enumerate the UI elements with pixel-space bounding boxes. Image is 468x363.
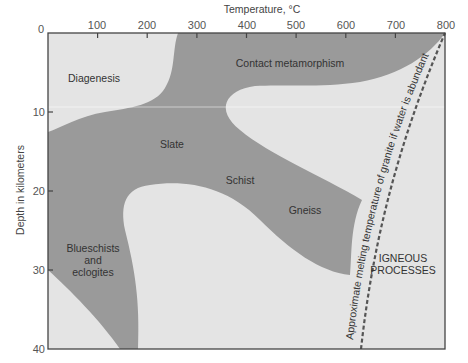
x-tick-600: 600 <box>337 19 355 31</box>
label-contact-metamorphism: Contact metamorphism <box>236 57 345 69</box>
label-schist: Schist <box>226 174 255 186</box>
x-tick-700: 700 <box>387 19 405 31</box>
y-tick-40: 40 <box>33 343 45 355</box>
y-tick-20: 20 <box>33 185 45 197</box>
y-tick-30: 30 <box>33 264 45 276</box>
metamorphism-diagram: Temperature, °C 0 100 200 300 400 500 60… <box>0 0 468 363</box>
x-tick-200: 200 <box>138 19 156 31</box>
x-tick-500: 500 <box>287 19 305 31</box>
x-tick-0: 0 <box>38 23 44 35</box>
label-diagenesis: Diagenesis <box>68 72 120 84</box>
y-axis-title: Depth in kilometers <box>14 145 26 235</box>
label-blueschists-1: Blueschists <box>66 242 119 254</box>
x-tick-100: 100 <box>88 19 106 31</box>
x-axis-title: Temperature, °C <box>224 3 301 15</box>
x-tick-800: 800 <box>437 19 455 31</box>
x-tick-400: 400 <box>238 19 256 31</box>
label-gneiss: Gneiss <box>289 204 322 216</box>
label-blueschists-3: eclogites <box>72 266 113 278</box>
y-tick-10: 10 <box>33 106 45 118</box>
label-igneous-2: PROCESSES <box>370 264 435 276</box>
y-axis-tick-labels: 10 20 30 40 <box>33 106 45 355</box>
x-tick-300: 300 <box>188 19 206 31</box>
label-blueschists-2: and <box>84 254 102 266</box>
label-igneous-1: IGNEOUS <box>379 252 427 264</box>
label-slate: Slate <box>160 138 184 150</box>
